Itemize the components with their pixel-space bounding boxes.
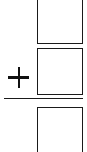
addend-2-box[interactable] <box>37 48 83 95</box>
plus-icon: + <box>8 67 29 88</box>
operator-label: + <box>8 67 9 68</box>
sum-answer-box[interactable] <box>37 107 83 152</box>
addend-2-value <box>38 49 39 50</box>
sum-divider-line <box>4 98 83 100</box>
plus-icon-vertical <box>18 67 21 88</box>
addend-1-box[interactable] <box>37 0 83 44</box>
sum-value <box>38 108 39 109</box>
